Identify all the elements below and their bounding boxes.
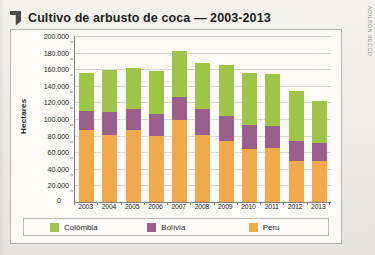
scanned-page: Cultivo de arbusto de coca — 2003-2013 A… [0, 0, 375, 255]
plot-wrapper: Hectares 200.000180.000160.000140.000120… [11, 30, 341, 243]
bar-segment-peru [172, 120, 187, 202]
bar-segment-bolvia [102, 112, 117, 134]
legend-label: Colômbia [64, 223, 98, 232]
bar-segment-peru [149, 136, 164, 202]
bar-segment-colmbia [149, 71, 164, 114]
y-axis-tick-label: 120.000 [44, 98, 69, 107]
y-axis-tick-mark [70, 58, 73, 59]
bar-segment-bolvia [79, 111, 94, 130]
y-axis-tick-label: 180.000 [44, 48, 69, 57]
y-axis-tick-mark [70, 174, 73, 175]
bar-segment-bolvia [172, 97, 187, 120]
x-axis-tick-label: 2011 [264, 203, 279, 210]
y-axis-tick-mark [70, 125, 73, 126]
y-axis-tick-label: 200.000 [44, 32, 69, 41]
chart-legend: ColômbiaBolíviaPeru [23, 218, 329, 236]
page-title-row: Cultivo de arbusto de coca — 2003-2013 [10, 8, 349, 28]
bar-segment-colmbia [195, 63, 210, 109]
bar-column[interactable] [102, 36, 117, 202]
bar-segment-colmbia [172, 51, 187, 97]
bar-segment-colmbia [289, 91, 304, 141]
y-axis-tick-mark [70, 42, 73, 43]
bar-segment-bolvia [195, 109, 210, 135]
y-axis-tick-mark [70, 108, 73, 109]
bar-column[interactable] [79, 36, 94, 202]
bar-segment-colmbia [79, 73, 94, 110]
legend-item-bolvia[interactable]: Bolívia [129, 223, 226, 232]
bar-column[interactable] [265, 36, 280, 202]
x-axis-tick-label: 2009 [218, 203, 233, 210]
legend-item-peru[interactable]: Peru [227, 223, 328, 232]
bar-column[interactable] [312, 36, 327, 202]
bar-segment-peru [265, 148, 280, 202]
x-axis-tick-label: 2008 [194, 203, 209, 210]
bar-segment-peru [312, 161, 327, 202]
y-axis-tick-mark [70, 158, 73, 159]
flag-bookmark-icon [10, 11, 21, 26]
y-axis-tick-label: 20.000 [48, 181, 69, 190]
bar-segment-peru [126, 130, 141, 202]
plot-area [74, 36, 331, 203]
chart-frame: Hectares 200.000180.000160.000140.000120… [10, 29, 342, 244]
y-axis-tick-label: 60.000 [48, 148, 69, 157]
bar-segment-colmbia [102, 70, 117, 112]
bar-segment-bolvia [265, 126, 280, 148]
bar-segment-colmbia [265, 74, 280, 126]
bar-segment-peru [289, 161, 304, 202]
x-axis-tick-label: 2006 [148, 203, 163, 210]
bar-segment-bolvia [242, 125, 257, 149]
x-axis-tick-label: 2004 [101, 203, 116, 210]
x-axis-tick-label: 2012 [288, 203, 303, 210]
legend-label: Peru [263, 223, 280, 232]
y-axis-tick-label: 160.000 [44, 65, 69, 74]
y-axis-tick-mark [70, 141, 73, 142]
bar-segment-peru [79, 130, 94, 202]
bar-segment-bolvia [312, 143, 327, 161]
bar-segment-bolvia [149, 114, 164, 136]
y-axis-tick-label: 140.000 [44, 81, 69, 90]
y-axis-ticks: 200.000180.000160.000140.000120.000100.0… [27, 36, 73, 202]
bar-segment-colmbia [312, 101, 327, 143]
bar-column[interactable] [195, 36, 210, 202]
y-axis-tick-mark [70, 75, 73, 76]
x-axis-tick-label: 2013 [311, 203, 326, 210]
legend-item-colmbia[interactable]: Colômbia [24, 223, 129, 232]
legend-swatch [147, 223, 156, 232]
bar-segment-peru [102, 135, 117, 202]
bar-column[interactable] [126, 36, 141, 202]
x-axis-tick-label: 2005 [125, 203, 140, 210]
x-axis-ticks: 2003200420052006200720082009201020112012… [74, 203, 330, 216]
bar-segment-bolvia [219, 116, 234, 142]
y-axis-tick-mark [70, 191, 73, 192]
bar-segment-peru [242, 149, 257, 202]
bar-segment-peru [195, 135, 210, 202]
bar-segment-bolvia [126, 109, 141, 130]
bar-column[interactable] [149, 36, 164, 202]
bar-segment-colmbia [242, 73, 257, 124]
legend-swatch [249, 223, 258, 232]
bar-column[interactable] [219, 36, 234, 202]
x-axis-tick-label: 2003 [78, 203, 93, 210]
illustrator-credit: ADILSON SECCO [367, 6, 373, 56]
bar-column[interactable] [289, 36, 304, 202]
legend-label: Bolívia [161, 223, 185, 232]
page-title: Cultivo de arbusto de coca — 2003-2013 [28, 11, 271, 25]
bar-series-group [75, 36, 331, 202]
bar-column[interactable] [242, 36, 257, 202]
x-axis-tick-label: 2010 [241, 203, 256, 210]
bar-segment-colmbia [126, 68, 141, 109]
bar-segment-peru [219, 141, 234, 202]
bar-column[interactable] [172, 36, 187, 202]
y-axis-tick-label: 80.000 [48, 131, 69, 140]
y-axis-tick-label: 100.000 [44, 115, 69, 124]
bar-segment-bolvia [289, 141, 304, 162]
y-axis-tick-mark [70, 91, 73, 92]
y-axis-tick-label: 40.000 [48, 164, 69, 173]
bar-segment-colmbia [219, 65, 234, 116]
x-axis-tick-label: 2007 [171, 203, 186, 210]
y-axis-zero-label: 0 [57, 196, 61, 205]
legend-swatch [50, 223, 59, 232]
